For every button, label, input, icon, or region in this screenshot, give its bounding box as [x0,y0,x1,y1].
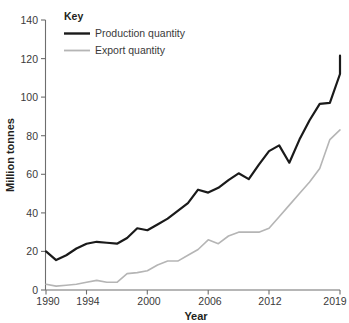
y-tick-label-60: 60 [26,168,38,180]
legend-title: Key [64,10,83,22]
x-tick-label-1994: 1994 [76,295,100,307]
y-tick-label-100: 100 [20,91,38,103]
x-tick-label-2000: 2000 [137,295,161,307]
chart-background [0,0,349,323]
y-tick-label-80: 80 [26,130,38,142]
legend-label-production: Production quantity [95,27,186,39]
y-tick-label-140: 140 [20,14,38,26]
y-tick-label-20: 20 [26,245,38,257]
legend-label-export: Export quantity [95,44,166,56]
x-tick-label-1990: 1990 [36,295,60,307]
chart-canvas: 140 120 100 80 60 40 20 0 1990 1994 2000 [0,0,349,323]
line-chart: 140 120 100 80 60 40 20 0 1990 1994 2000 [0,0,349,323]
x-axis-title: Year [184,310,208,322]
y-axis-title: Million tonnes [4,118,16,192]
x-tick-label-2006: 2006 [198,295,222,307]
y-tick-label-120: 120 [20,53,38,65]
x-tick-label-2012: 2012 [258,295,282,307]
x-tick-label-2019: 2019 [323,295,347,307]
y-tick-label-40: 40 [26,207,38,219]
